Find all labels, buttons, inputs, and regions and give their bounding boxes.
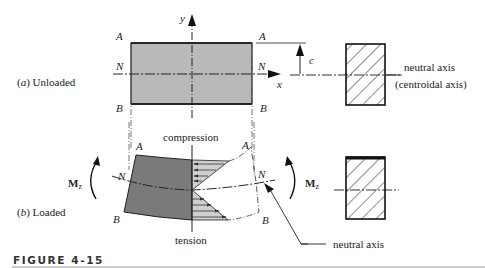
- y-arrow-icon: [188, 14, 196, 26]
- label-a-left-loaded: A: [135, 140, 143, 152]
- y-axis-label: y: [179, 12, 185, 24]
- label-a-left: A: [115, 30, 123, 42]
- panel-b-loaded: (b) Loaded compression tension Mz Mz: [17, 122, 399, 250]
- label-a-right-loaded: A: [241, 139, 249, 151]
- label-n-left-loaded: N: [117, 170, 126, 182]
- centroidal-axis-label: (centroidal axis): [395, 78, 467, 91]
- c-dimension-arrow-icon: [296, 44, 304, 56]
- compression-stress-block: [192, 160, 229, 190]
- neutral-axis-label: neutral axis: [404, 61, 455, 73]
- tension-label: tension: [175, 234, 207, 246]
- label-b-left: B: [116, 102, 123, 114]
- label-b-right: B: [260, 102, 267, 114]
- neutral-axis-pointer-label: neutral axis: [333, 238, 384, 250]
- label-n-right: N: [257, 60, 266, 72]
- cross-section-unloaded: [346, 44, 385, 105]
- label-n-left: N: [115, 60, 124, 72]
- panel-a-label: (a) Unloaded: [17, 76, 76, 89]
- loaded-beam: [124, 155, 192, 220]
- label-b-left-loaded: B: [113, 213, 120, 225]
- label-a-right: A: [258, 30, 266, 42]
- panel-a-unloaded: (a) Unloaded y x A N B A N B c neutral a…: [17, 12, 467, 150]
- moment-right-label: Mz: [305, 177, 319, 191]
- compression-label: compression: [163, 131, 219, 143]
- x-axis-label: x: [276, 78, 282, 90]
- x-arrow-icon: [268, 70, 281, 78]
- neutral-axis-pointer: [268, 186, 308, 244]
- label-b-right-loaded: B: [262, 214, 269, 226]
- label-n-right-loaded: N: [257, 168, 266, 180]
- moment-arrow-left: [91, 161, 97, 199]
- cross-section-loaded: [346, 157, 385, 219]
- moment-left-label: Mz: [68, 177, 82, 191]
- figure-caption: FIGURE 4-15: [13, 254, 104, 266]
- bending-diagram: (a) Unloaded y x A N B A N B c neutral a…: [0, 0, 485, 268]
- dim-c-label: c: [309, 54, 314, 66]
- panel-b-label: (b) Loaded: [17, 206, 66, 219]
- moment-arrow-right: [289, 161, 295, 199]
